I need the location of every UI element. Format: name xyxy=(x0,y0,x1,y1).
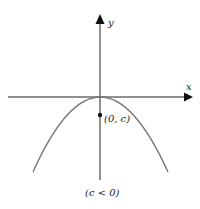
y-axis-label: y xyxy=(107,17,114,28)
x-axis-arrow-icon xyxy=(184,93,193,102)
y-axis-arrow-icon xyxy=(96,14,105,24)
point-label: (0, c) xyxy=(104,113,130,124)
parabola-diagram: x y (0, c) (c < 0) xyxy=(0,0,200,209)
point-0-c xyxy=(98,113,102,117)
caption: (c < 0) xyxy=(85,187,120,198)
x-axis-label: x xyxy=(186,81,192,92)
